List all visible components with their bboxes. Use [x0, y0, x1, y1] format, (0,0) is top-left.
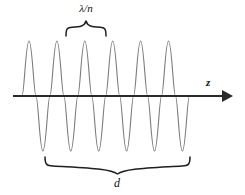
wavelength-brace — [66, 21, 106, 36]
wavelength-label: λ/n — [0, 2, 172, 14]
figure-canvas — [0, 0, 245, 195]
standing-wave-figure: λ/n d z — [0, 0, 245, 195]
axis-label-z: z — [206, 76, 210, 88]
distance-label: d — [0, 176, 234, 191]
cavity-length-brace — [45, 157, 190, 174]
z-axis-arrowhead-icon — [222, 90, 233, 102]
